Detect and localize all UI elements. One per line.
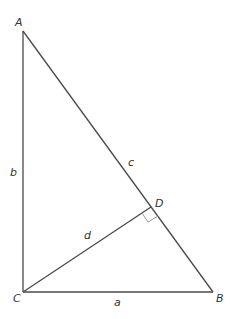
altitude-d-line bbox=[23, 207, 151, 292]
side-c-line bbox=[23, 31, 213, 292]
side-label-b: b bbox=[10, 166, 17, 179]
side-label-a: a bbox=[114, 296, 121, 309]
side-label-d: d bbox=[84, 229, 92, 242]
vertex-label-c: C bbox=[13, 292, 21, 305]
side-label-c: c bbox=[128, 156, 134, 169]
vertex-label-a: A bbox=[14, 16, 23, 29]
vertex-label-b: B bbox=[216, 292, 224, 305]
right-angle-mark bbox=[142, 213, 158, 222]
vertex-label-d: D bbox=[155, 197, 163, 210]
triangle-diagram: A b c D d C a B bbox=[0, 0, 235, 319]
